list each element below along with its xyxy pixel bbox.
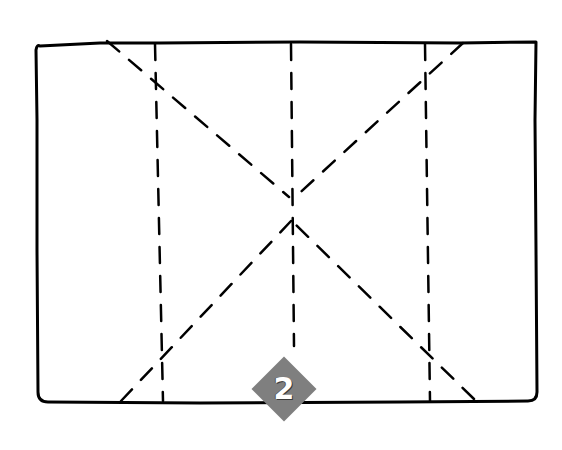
vertical-fold-center (291, 44, 294, 346)
vertical-fold-right (425, 44, 430, 401)
diagonal-fold-top-right (293, 43, 463, 199)
paper-outline (36, 42, 537, 403)
step-number: 2 (251, 356, 317, 422)
diagonal-fold-top-left (107, 41, 289, 197)
vertical-fold-left (155, 44, 163, 401)
diagonal-fold-bottom-right (293, 222, 474, 399)
step-badge: 2 (251, 356, 317, 422)
